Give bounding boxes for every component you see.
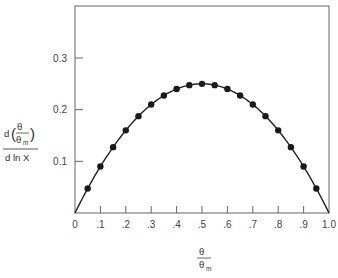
y-tick-label: 0.1 [53,156,67,167]
data-point [313,185,319,191]
data-point [288,144,294,150]
data-point [275,127,281,133]
x-tick-label: .9 [299,219,308,230]
y-label-theta: θ [17,121,22,132]
x-axis-label: θ θ m [197,246,211,272]
data-point [123,127,129,133]
data-point [212,82,218,88]
y-label-denominator: d ln X [5,152,30,163]
x-tick-label: .7 [249,219,258,230]
data-point [85,185,91,191]
y-tick-label: 0.2 [53,104,67,115]
data-point [173,86,179,92]
data-point [148,101,154,107]
y-label-m-sub: m [23,139,28,146]
plot-border [75,6,329,213]
x-tick-label: .3 [147,219,156,230]
y-label-paren-close: ) [30,125,35,142]
x-tick-label: .1 [96,219,105,230]
x-tick-label: .2 [122,219,131,230]
data-point [199,81,205,87]
y-tick-label: 0.3 [53,53,67,64]
x-tick-label: .4 [172,219,181,230]
y-label-d: d [4,128,9,139]
x-label-theta: θ [199,246,204,257]
data-point [224,86,230,92]
x-tick-label: .8 [274,219,283,230]
data-point [186,82,192,88]
x-label-m-sub: m [206,265,211,272]
data-point [237,92,243,98]
y-axis-ticks: 0.10.20.3 [53,53,83,167]
x-axis-ticks: 0.1.2.3.4.5.6.7.8.91.0 [72,206,336,230]
x-label-theta-m: θ [199,259,204,270]
data-point [161,92,167,98]
x-tick-label: 1.0 [322,219,336,230]
y-axis-label: d ( θ θ m ) d ln X [3,121,38,163]
x-tick-label: .5 [198,219,207,230]
data-point [97,163,103,169]
data-points [85,81,320,192]
data-point [300,163,306,169]
data-point [262,113,268,119]
chart: 0.1.2.3.4.5.6.7.8.91.0 0.10.20.3 d ( θ θ… [0,0,338,278]
data-point [110,144,116,150]
plot-frame [75,6,329,213]
x-tick-label: .6 [223,219,232,230]
x-tick-label: 0 [72,219,78,230]
data-point [250,101,256,107]
y-label-theta-m: θ [16,134,21,145]
data-point [135,113,141,119]
